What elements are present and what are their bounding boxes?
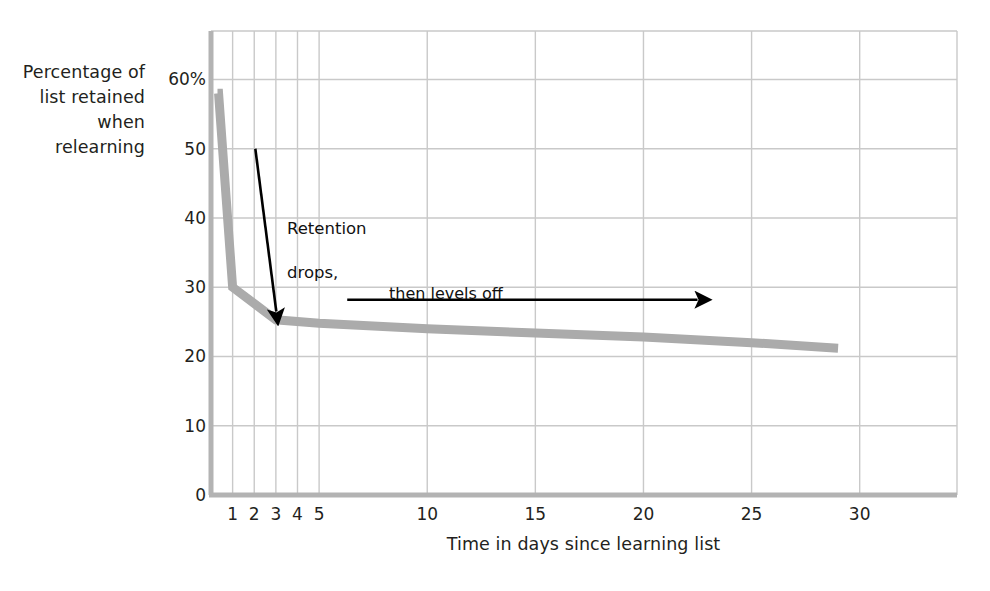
annotation-retention-line-1: Retention [287,218,367,240]
annotation-retention-drops: Retention drops, [287,196,367,306]
annotation-retention-line-2: drops, [287,262,367,284]
annotation-then-levels-off: then levels off [389,283,503,305]
retention-curve-figure: Percentage of list retained when relearn… [0,0,990,591]
x-axis-title: Time in days since learning list [210,534,957,554]
